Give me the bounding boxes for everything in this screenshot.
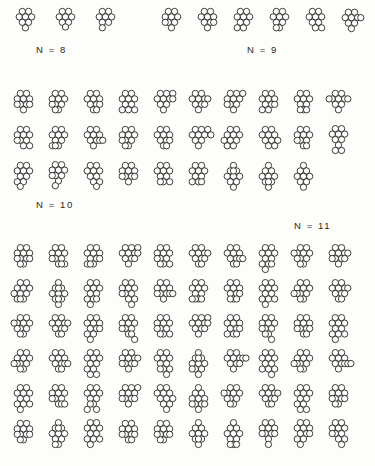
cluster-drawing (327, 124, 353, 152)
cluster-drawing (257, 160, 283, 188)
cluster-n11-19 (292, 278, 318, 306)
cluster-drawing (82, 124, 108, 152)
cluster-drawing (292, 243, 318, 271)
cluster-drawing (257, 313, 283, 341)
cluster-drawing (47, 160, 73, 188)
cluster-n10-21 (12, 160, 38, 188)
cluster-drawing (292, 313, 318, 341)
cluster-drawing (82, 383, 108, 411)
cluster-n11-27 (222, 313, 248, 341)
cluster-drawing (257, 348, 283, 376)
cluster-n11-51 (12, 418, 38, 446)
cluster-drawing (12, 348, 38, 376)
cluster-n11-56 (187, 418, 213, 446)
cluster-drawing (47, 243, 73, 271)
cluster-n11-53 (82, 418, 108, 446)
cluster-isomer-figure: N = 8N = 9N = 10N = 11 (0, 0, 375, 466)
cluster-n11-31 (12, 348, 38, 376)
cluster-drawing (12, 124, 38, 152)
cluster-n10-2 (47, 88, 73, 116)
cluster-n10-11 (12, 124, 38, 152)
cluster-drawing (292, 160, 318, 188)
cluster-drawing (152, 383, 178, 411)
cluster-drawing (327, 243, 353, 271)
cluster-n11-39 (292, 348, 318, 376)
cluster-drawing (47, 124, 73, 152)
cluster-n10-9 (292, 88, 318, 116)
cluster-n11-24 (117, 313, 143, 341)
cluster-drawing (292, 418, 318, 446)
cluster-drawing (152, 243, 178, 271)
cluster-n10-5 (152, 88, 178, 116)
cluster-n10-20 (327, 124, 353, 152)
cluster-drawing (187, 383, 213, 411)
cluster-n8-2 (54, 6, 80, 34)
cluster-n11-20 (327, 278, 353, 306)
cluster-drawing (257, 124, 283, 152)
cluster-drawing (327, 88, 353, 116)
cluster-drawing (94, 6, 120, 34)
cluster-drawing (187, 313, 213, 341)
cluster-n11-36 (187, 348, 213, 376)
cluster-n9-5 (304, 6, 330, 34)
cluster-drawing (152, 88, 178, 116)
cluster-n11-60 (327, 418, 353, 446)
cluster-n11-59 (292, 418, 318, 446)
cluster-n11-50 (327, 383, 353, 411)
cluster-drawing (257, 243, 283, 271)
cluster-n11-21 (12, 313, 38, 341)
cluster-n11-25 (152, 313, 178, 341)
cluster-drawing (327, 348, 353, 376)
cluster-n9-3 (232, 6, 258, 34)
cluster-drawing (327, 383, 353, 411)
cluster-n10-10 (327, 88, 353, 116)
cluster-n9-2 (196, 6, 222, 34)
cluster-n10-24 (117, 160, 143, 188)
cluster-drawing (257, 418, 283, 446)
cluster-drawing (12, 243, 38, 271)
cluster-drawing (292, 278, 318, 306)
cluster-n11-5 (152, 243, 178, 271)
cluster-n10-4 (117, 88, 143, 116)
cluster-drawing (327, 278, 353, 306)
cluster-n11-15 (152, 278, 178, 306)
cluster-n11-26 (187, 313, 213, 341)
cluster-drawing (222, 313, 248, 341)
cluster-n11-42 (47, 383, 73, 411)
cluster-drawing (82, 160, 108, 188)
cluster-drawing (12, 418, 38, 446)
cluster-n11-3 (82, 243, 108, 271)
n-label-n10: N = 10 (36, 199, 74, 210)
cluster-drawing (257, 278, 283, 306)
cluster-drawing (117, 383, 143, 411)
cluster-drawing (222, 88, 248, 116)
cluster-n10-15 (152, 124, 178, 152)
cluster-n11-8 (257, 243, 283, 271)
cluster-n11-30 (327, 313, 353, 341)
cluster-drawing (152, 313, 178, 341)
cluster-drawing (268, 6, 294, 34)
cluster-n10-19 (292, 124, 318, 152)
cluster-n11-34 (117, 348, 143, 376)
cluster-n10-1 (12, 88, 38, 116)
cluster-n11-10 (327, 243, 353, 271)
cluster-n11-52 (47, 418, 73, 446)
cluster-drawing (82, 313, 108, 341)
cluster-n10-25 (152, 160, 178, 188)
cluster-drawing (117, 418, 143, 446)
cluster-n11-13 (82, 278, 108, 306)
cluster-n11-44 (117, 383, 143, 411)
cluster-n10-28 (257, 160, 283, 188)
cluster-group-n10 (12, 88, 353, 188)
n-label-n11: N = 11 (294, 220, 331, 231)
cluster-drawing (12, 278, 38, 306)
cluster-drawing (222, 243, 248, 271)
cluster-n11-22 (47, 313, 73, 341)
cluster-drawing (222, 418, 248, 446)
cluster-drawing (47, 383, 73, 411)
cluster-drawing (187, 348, 213, 376)
cluster-n10-22 (47, 160, 73, 188)
cluster-drawing (117, 124, 143, 152)
n-label-n9: N = 9 (247, 44, 278, 55)
cluster-n10-18 (257, 124, 283, 152)
